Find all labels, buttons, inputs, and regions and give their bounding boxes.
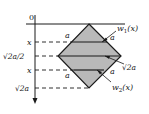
tick-label-half-diagonal: √2a/2 — [3, 52, 25, 61]
square-cross-section-diagram: 0 x √2a/2 x √2a a a a a w1(x) √2a w2(x) — [0, 0, 149, 114]
side-label-upper-left: a — [65, 31, 70, 40]
side-label-upper-right: a — [110, 33, 115, 42]
axis-arrow-icon — [33, 98, 38, 104]
side-label-lower-left: a — [65, 71, 70, 80]
side-label-lower-right: a — [110, 67, 115, 76]
tick-label-x-upper: x — [27, 38, 32, 47]
tick-label-x-lower: x — [27, 66, 32, 75]
tick-label-full-diagonal: √2a — [15, 84, 29, 93]
diagonal-label: √2a — [122, 63, 136, 72]
w2-label: w2(x) — [112, 83, 133, 93]
origin-label: 0 — [29, 13, 34, 22]
w1-label: w1(x) — [117, 24, 138, 34]
